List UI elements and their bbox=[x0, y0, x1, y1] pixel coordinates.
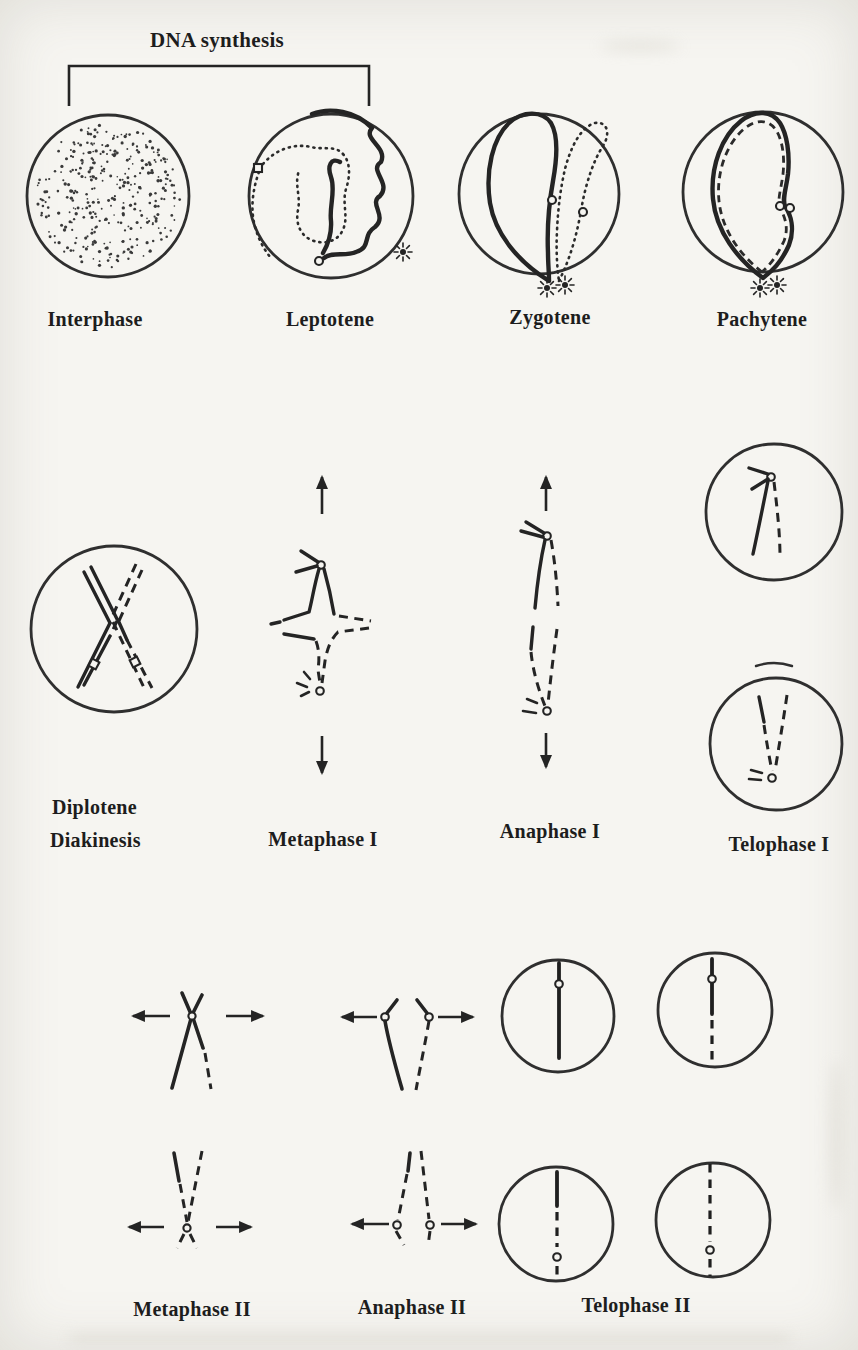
chromosome-solid bbox=[324, 569, 334, 614]
dna-synthesis-bracket bbox=[69, 66, 369, 106]
cell-membrane bbox=[656, 1163, 770, 1277]
chromosome-solid bbox=[408, 1153, 410, 1171]
leptotene-label: Leptotene bbox=[286, 308, 374, 331]
meiosis-figure-page: DNA synthesis Interphase Leptotene Zygot… bbox=[0, 0, 858, 1350]
chromosome-dashed bbox=[551, 540, 558, 606]
chromosome-dashed bbox=[751, 770, 762, 773]
anaphase-ii-cells bbox=[342, 1000, 476, 1246]
cell-membrane bbox=[706, 444, 842, 580]
chromosome-solid bbox=[323, 161, 340, 253]
centriole-aster-icon bbox=[538, 279, 556, 297]
chromosome-solid bbox=[174, 1153, 179, 1181]
centromere-marker bbox=[183, 1224, 190, 1231]
centromere-marker bbox=[426, 1221, 434, 1229]
centromere-marker bbox=[776, 202, 784, 210]
leptotene-cell bbox=[249, 111, 413, 278]
chromosome-dashed bbox=[523, 711, 536, 713]
chromosome-dashed bbox=[421, 1151, 429, 1219]
chromosome-dashed bbox=[177, 1234, 184, 1248]
chromosome-dashed bbox=[190, 1234, 197, 1248]
chromatin-stipple bbox=[36, 124, 181, 269]
chromosome-dashed bbox=[316, 641, 320, 683]
chromosome-dashed bbox=[719, 122, 787, 272]
anaphase-i-figure bbox=[521, 477, 558, 767]
chromosome-dashed bbox=[322, 628, 369, 683]
centromere-marker bbox=[706, 1246, 714, 1254]
centromere-marker bbox=[548, 196, 556, 204]
chromosome-dashed bbox=[113, 622, 146, 692]
chromosome-solid bbox=[759, 697, 764, 722]
chromosome-dashed bbox=[531, 652, 545, 706]
chromosome-dashed bbox=[188, 1151, 202, 1222]
zygotene-cell bbox=[459, 114, 619, 297]
chromosome-solid bbox=[749, 468, 768, 474]
chromosome-dashed bbox=[416, 1021, 429, 1090]
cell-boundary-arc bbox=[756, 663, 792, 666]
chromosome-dashed bbox=[774, 482, 780, 557]
centromere-marker bbox=[393, 1221, 401, 1229]
chromosome-dashed bbox=[764, 725, 772, 771]
chromosome-solid bbox=[385, 1021, 402, 1089]
chromosome-solid bbox=[78, 623, 110, 687]
chromosome-dashed bbox=[180, 1184, 187, 1222]
centromere-marker bbox=[316, 687, 324, 695]
chromosome-solid bbox=[284, 569, 319, 620]
chromosome-dotted bbox=[252, 172, 271, 258]
anaphase-i-label: Anaphase I bbox=[500, 820, 600, 843]
anaphase-ii-label: Anaphase II bbox=[358, 1296, 466, 1319]
chromosome-solid bbox=[753, 481, 768, 554]
centromere-marker bbox=[768, 774, 776, 782]
centriole-aster-icon bbox=[394, 243, 412, 261]
chromosome-dashed bbox=[749, 779, 761, 780]
chromosome-dotted bbox=[297, 154, 349, 242]
centriole-aster-icon bbox=[768, 276, 786, 294]
chromosome-dashed bbox=[297, 683, 307, 687]
centromere-marker bbox=[188, 1012, 195, 1019]
chromosome-dashed bbox=[205, 1053, 211, 1089]
centromere-marker bbox=[553, 1253, 561, 1261]
chromosome-dashed bbox=[339, 616, 371, 621]
chromosome-solid bbox=[301, 551, 318, 562]
diakinesis-label: Diakinesis bbox=[50, 829, 141, 852]
cell-membrane bbox=[710, 678, 842, 810]
chromosome-dotted bbox=[557, 123, 608, 281]
centromere-marker bbox=[786, 204, 794, 212]
cell-membrane bbox=[459, 114, 619, 274]
chromosome-dashed bbox=[548, 629, 557, 704]
chromosome-solid bbox=[535, 540, 545, 608]
chromosome-solid bbox=[271, 622, 280, 624]
centromere-marker bbox=[579, 208, 587, 216]
centriole-aster-icon bbox=[751, 279, 769, 297]
zygotene-label: Zygotene bbox=[509, 306, 590, 329]
chromosome-solid bbox=[284, 634, 314, 639]
chromosome-solid bbox=[182, 993, 191, 1014]
chromosome-dashed bbox=[398, 1174, 407, 1220]
cell-membrane bbox=[658, 953, 772, 1067]
centriole-aster-icon bbox=[556, 276, 574, 294]
telophase-i-label: Telophase I bbox=[729, 833, 830, 856]
chromosome-solid bbox=[193, 1018, 203, 1048]
telophase-ii-cells bbox=[499, 953, 772, 1281]
cell-membrane bbox=[683, 112, 843, 272]
chromosome-dashed bbox=[304, 672, 310, 679]
chromosome-dashed bbox=[527, 699, 537, 703]
centromere-marker bbox=[555, 980, 563, 988]
centromere-marker bbox=[254, 164, 262, 172]
centromere-marker bbox=[543, 707, 551, 715]
chromosome-solid bbox=[489, 114, 557, 281]
telophase-i-cells bbox=[706, 444, 842, 810]
metaphase-ii-label: Metaphase II bbox=[133, 1298, 251, 1321]
diplotene-diakinesis-cell bbox=[31, 546, 197, 712]
chromosome-dashed bbox=[775, 695, 787, 771]
metaphase-i-figure bbox=[271, 477, 371, 773]
chromosome-dashed bbox=[301, 692, 309, 696]
chromosome-solid bbox=[387, 1000, 397, 1013]
centromere-marker bbox=[315, 257, 323, 265]
centromere-marker bbox=[130, 657, 141, 668]
centromere-marker bbox=[708, 975, 716, 983]
cell-membrane bbox=[27, 115, 189, 277]
chromosome-solid bbox=[531, 627, 533, 649]
pachytene-label: Pachytene bbox=[717, 308, 807, 331]
chromosome-solid bbox=[417, 1000, 427, 1013]
meiosis-diagram bbox=[0, 0, 858, 1350]
